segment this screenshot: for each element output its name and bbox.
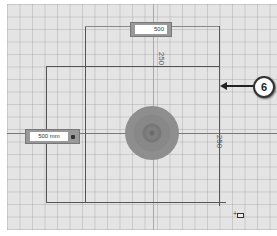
width-input-group: 500 [130, 22, 172, 37]
height-input-group: 500 mm [25, 129, 80, 144]
arrow-head-icon [220, 82, 227, 90]
drawing-canvas[interactable]: 250 250 500 500 mm 6 + [7, 4, 277, 230]
width-input[interactable]: 500 [135, 25, 167, 34]
callout-badge: 6 [253, 76, 275, 98]
rect-top-edge [46, 66, 219, 67]
rect-bottom-edge [46, 202, 226, 203]
right-dimension-label: 250 [215, 135, 224, 148]
height-input[interactable]: 500 mm [30, 132, 68, 141]
rectangle-cursor-icon: + [233, 210, 243, 218]
lock-icon[interactable] [71, 135, 75, 139]
top-dimension-label: 250 [157, 52, 166, 65]
circle-object[interactable] [125, 106, 179, 160]
inner-left-edge [85, 26, 86, 202]
rect-right-edge [219, 26, 220, 206]
